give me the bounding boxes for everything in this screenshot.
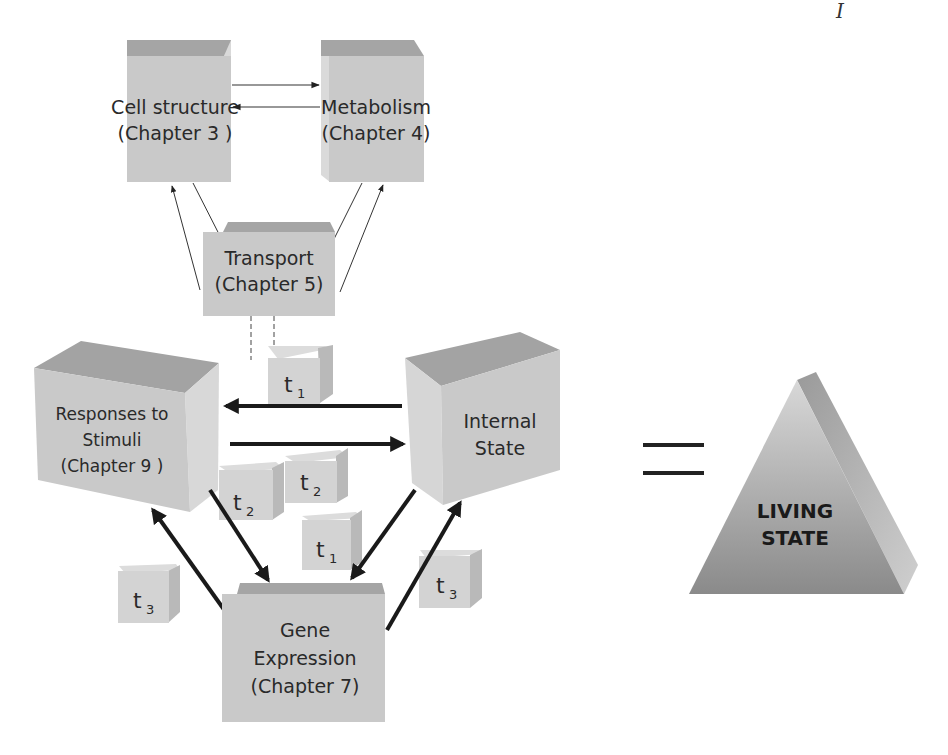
time-cube-t2-left: t 2 [219,462,284,520]
transport-box: Transport (Chapter 5) [203,222,335,316]
time-cube-t1-top: t 1 [268,345,333,404]
time-cube-t3-left: t 3 [118,564,180,623]
time-cube-t2-right: t 2 [285,448,348,503]
time-cube-t1-bottom: t 1 [302,510,362,570]
svg-text:t: t [233,490,242,515]
arrow-transport-to-cell [172,186,200,290]
svg-text:3: 3 [449,587,457,602]
living-state-pyramid: LIVING STATE [689,372,918,594]
svg-text:t: t [133,588,142,613]
internal-state-line1: Internal [463,410,536,432]
responses-line3: (Chapter 9 ) [61,456,164,476]
living-state-line1: LIVING [757,499,833,523]
internal-state-line2: State [475,437,525,459]
svg-text:2: 2 [313,484,321,499]
svg-text:1: 1 [297,386,305,401]
metabolism-title: Metabolism [321,96,431,118]
cell-structure-chapter: (Chapter 3 ) [118,122,233,144]
gene-expression-box: Gene Expression (Chapter 7) [222,583,385,722]
arrow-cell-to-transport [193,183,222,240]
equals-sign [643,443,704,475]
responses-to-stimuli-box: Responses to Stimuli (Chapter 9 ) [34,341,219,512]
svg-text:t: t [284,372,293,397]
metabolism-box: Metabolism (Chapter 4) [321,40,431,182]
cell-structure-title: Cell structure [111,96,239,118]
svg-text:t: t [436,573,445,598]
svg-text:1: 1 [329,551,337,566]
arrow-transport-to-metabolism [340,185,383,292]
svg-text:t: t [300,470,309,495]
metabolism-chapter: (Chapter 4) [322,122,431,144]
responses-line2: Stimuli [83,430,142,450]
gene-expression-line1: Gene [280,619,330,641]
cell-structure-box: Cell structure (Chapter 3 ) [111,40,239,182]
living-state-diagram: I Cell structure (Chapter 3 ) Metabolism… [0,0,948,755]
transport-chapter: (Chapter 5) [215,273,324,295]
svg-text:3: 3 [146,602,154,617]
responses-line1: Responses to [56,404,169,424]
transport-title: Transport [223,247,313,269]
svg-text:t: t [316,537,325,562]
page-corner-mark: I [835,0,845,23]
internal-state-box: Internal State [405,332,560,505]
living-state-line2: STATE [761,526,829,550]
gene-expression-line3: (Chapter 7) [251,675,360,697]
gene-expression-line2: Expression [253,647,356,669]
svg-text:2: 2 [246,504,254,519]
